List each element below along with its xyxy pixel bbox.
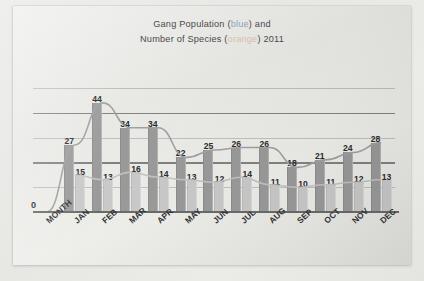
x-axis-labels: MONTHJANFEBMARAPRMAYJUNJULAUGSEPOCTNOVDE… bbox=[33, 214, 395, 264]
x-axis-label-cell: AUG bbox=[256, 214, 284, 264]
title-line2-pre: Number of Species ( bbox=[140, 34, 228, 44]
x-axis-label-cell: MONTH bbox=[33, 214, 61, 264]
screenshot-canvas: Gang Population (blue) and Number of Spe… bbox=[0, 0, 424, 281]
line-overlays bbox=[33, 88, 395, 212]
x-axis-label-cell: JAN bbox=[61, 214, 89, 264]
x-axis-label-cell: NOV bbox=[339, 214, 367, 264]
title-line1-post: ) and bbox=[249, 19, 271, 29]
chart-title-line-1: Gang Population (blue) and bbox=[13, 19, 411, 29]
title-line2-post: ) 2011 bbox=[257, 34, 284, 44]
plot-area: 0271544133416341422132512261426111810211… bbox=[33, 88, 395, 212]
title-line1-pre: Gang Population ( bbox=[153, 19, 230, 29]
line-series-orange bbox=[75, 172, 381, 187]
x-axis-label-cell: MAR bbox=[117, 214, 145, 264]
title-word-orange: orange bbox=[228, 34, 258, 44]
x-axis-label-cell: SEP bbox=[284, 214, 312, 264]
x-axis-label-cell: JUL bbox=[228, 214, 256, 264]
x-axis-label-cell: JUN bbox=[200, 214, 228, 264]
chart-title-line-2: Number of Species (orange) 2011 bbox=[13, 34, 411, 44]
x-axis-label-cell: APR bbox=[144, 214, 172, 264]
line-series-blue bbox=[47, 103, 381, 212]
x-axis-label-cell: OCT bbox=[311, 214, 339, 264]
chart-sheet: Gang Population (blue) and Number of Spe… bbox=[13, 6, 411, 265]
x-axis-label-cell: DEC bbox=[367, 214, 395, 264]
x-axis-label-cell: MAY bbox=[172, 214, 200, 264]
title-word-blue: blue bbox=[231, 19, 249, 29]
x-axis-label-cell: FEB bbox=[89, 214, 117, 264]
